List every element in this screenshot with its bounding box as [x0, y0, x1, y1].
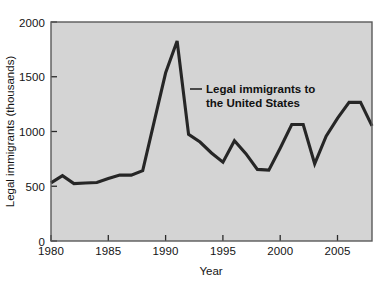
y-tick-label-2000: 2000 [19, 17, 45, 29]
x-tick-label-2005: 2005 [325, 245, 351, 257]
y-axis-title: Legal immigrants (thousands) [4, 56, 16, 208]
x-axis-title: Year [199, 265, 222, 277]
plot-area-background [51, 22, 372, 241]
immigration-line-chart: 0 500 1000 1500 2000 1980 1985 1990 1995… [0, 0, 385, 286]
chart-figure: 0 500 1000 1500 2000 1980 1985 1990 1995… [0, 0, 385, 286]
y-tick-label-1000: 1000 [19, 126, 45, 138]
annotation-line-1: Legal immigrants to [206, 83, 315, 95]
x-tick-label-1985: 1985 [95, 245, 121, 257]
y-tick-label-500: 500 [26, 181, 46, 193]
x-tick-label-1990: 1990 [153, 245, 179, 257]
x-tick-label-1995: 1995 [210, 245, 236, 257]
x-tick-label-2000: 2000 [267, 245, 293, 257]
annotation-line-2: the United States [206, 97, 300, 109]
y-tick-label-1500: 1500 [19, 71, 45, 83]
x-tick-label-1980: 1980 [38, 245, 64, 257]
